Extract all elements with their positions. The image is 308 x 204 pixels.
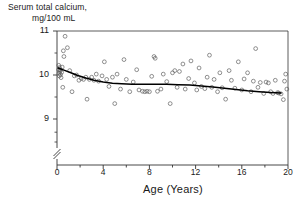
data-point — [128, 90, 132, 94]
data-point — [281, 98, 285, 102]
fitted-trend-curve — [58, 68, 281, 93]
data-point — [266, 81, 270, 85]
data-point — [148, 90, 152, 94]
chart-figure: Serum total calcium, mg/100 mL Age (Year… — [0, 0, 308, 204]
data-point — [100, 74, 104, 78]
data-point — [135, 68, 139, 72]
data-point — [246, 71, 250, 75]
y-tick-label: 10 — [27, 69, 49, 79]
data-point — [107, 85, 111, 89]
data-point — [208, 53, 212, 57]
data-point — [105, 78, 109, 82]
data-point — [124, 78, 128, 82]
data-point — [197, 66, 201, 70]
x-tick-label: 16 — [233, 167, 251, 177]
y-tick-label: 11 — [27, 25, 49, 35]
data-point — [119, 87, 123, 91]
data-point — [187, 77, 191, 81]
data-point — [227, 69, 231, 73]
data-point — [216, 90, 220, 94]
data-point — [161, 72, 165, 76]
data-point — [159, 87, 163, 91]
data-point — [173, 69, 177, 73]
x-tick-label: 8 — [140, 167, 158, 177]
x-tick-label: 12 — [187, 167, 205, 177]
data-point — [85, 97, 89, 101]
data-point — [115, 72, 119, 76]
data-point — [195, 88, 199, 92]
data-point — [156, 89, 160, 93]
data-point — [193, 81, 197, 85]
x-axis-label: Age (Years) — [57, 183, 289, 195]
data-point — [264, 80, 268, 84]
data-point — [111, 75, 115, 79]
data-point — [183, 87, 187, 91]
x-tick-label: 4 — [94, 167, 112, 177]
data-point — [168, 102, 172, 106]
data-point — [230, 78, 234, 82]
data-point — [203, 87, 207, 91]
data-point — [256, 85, 260, 89]
data-point — [236, 60, 240, 64]
data-point — [212, 78, 216, 82]
x-tick-label: 20 — [279, 167, 297, 177]
data-point — [61, 85, 65, 89]
data-point — [251, 79, 255, 83]
data-point — [65, 46, 69, 50]
data-point — [131, 80, 135, 84]
data-point — [113, 102, 117, 106]
data-point — [224, 97, 228, 101]
data-point — [189, 59, 193, 63]
data-point — [273, 78, 277, 82]
data-point — [165, 80, 169, 84]
data-point — [175, 85, 179, 89]
data-point — [254, 47, 258, 51]
data-point — [102, 60, 106, 64]
data-point — [171, 71, 175, 75]
data-point — [218, 71, 222, 75]
data-point — [150, 74, 154, 78]
data-point — [283, 79, 287, 83]
data-point-group — [57, 34, 289, 105]
data-point — [122, 58, 126, 62]
data-point — [205, 75, 209, 79]
data-point — [258, 81, 262, 85]
data-point — [94, 72, 98, 76]
data-point — [178, 70, 182, 74]
y-tick-label: 9 — [27, 113, 49, 123]
data-point — [62, 55, 66, 59]
x-tick-label: 0 — [48, 167, 66, 177]
data-point — [61, 49, 65, 53]
data-point — [70, 90, 74, 94]
data-point — [181, 62, 185, 66]
data-point — [63, 34, 67, 38]
data-point — [284, 72, 288, 76]
data-point — [242, 77, 246, 81]
